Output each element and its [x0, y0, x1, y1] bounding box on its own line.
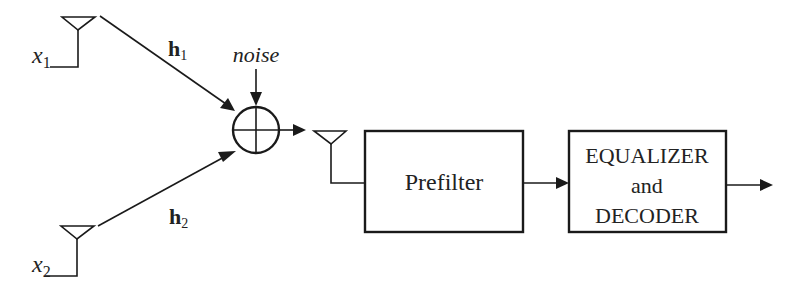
output-arrow: [726, 179, 773, 191]
prefilter-label: Prefilter: [405, 169, 484, 195]
channel-h2-label: h2: [169, 204, 188, 231]
summer-output-arrow: [279, 124, 306, 136]
channel-h2-arrow: [98, 151, 236, 226]
tx2-antenna-icon: [45, 226, 94, 276]
prefilter-to-equalizer-arrow: [523, 177, 569, 189]
tx1-antenna-icon: [50, 17, 95, 67]
equalizer-label-line1: EQUALIZER: [585, 143, 709, 168]
rx-antenna-icon: [314, 131, 365, 183]
adder-icon: [233, 107, 279, 153]
prefilter-block: Prefilter: [365, 131, 523, 232]
equalizer-label-line3: DECODER: [595, 203, 699, 228]
tx2-label: x2: [31, 251, 51, 280]
noise-label: noise: [233, 42, 280, 67]
noise-arrow: [250, 69, 262, 106]
channel-h1-arrow: [100, 16, 235, 111]
equalizer-decoder-block: EQUALIZER and DECODER: [569, 131, 726, 232]
tx1-label: x1: [31, 42, 51, 71]
mimo-block-diagram: x1 x2 h1 h2 noise: [0, 0, 811, 295]
channel-h1-label: h1: [168, 36, 187, 63]
equalizer-label-line2: and: [631, 173, 663, 198]
